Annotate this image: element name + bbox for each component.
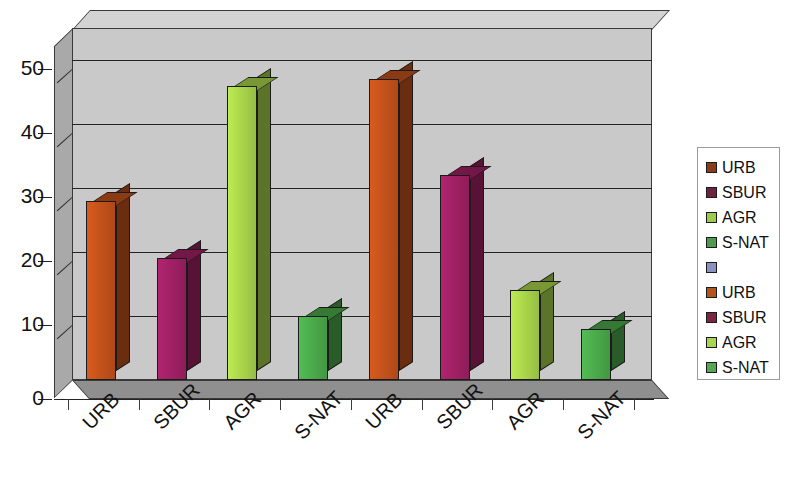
bar-s-nat-2 [581,329,611,380]
x-tick-mark [139,399,140,410]
plot-top-face [72,10,670,30]
legend-item-4[interactable] [706,255,779,280]
legend-swatch-icon [706,337,717,348]
legend-swatch-icon [706,212,717,223]
bar-front-face [440,175,470,380]
bar-sbur-2 [440,175,470,380]
bar-s-nat-1 [298,316,328,380]
legend-item-3[interactable]: S-NAT [706,230,779,255]
legend-label: S-NAT [722,360,769,376]
bar-side-face [257,68,271,371]
x-tick-mark [492,399,493,410]
legend-item-7[interactable]: AGR [706,330,779,355]
legend-label: SBUR [722,310,766,326]
gridline [72,252,652,253]
legend-swatch-icon [706,312,717,323]
legend-label: URB [722,160,756,176]
chart-legend: URBSBURAGRS-NATURBSBURAGRS-NAT [697,147,780,380]
legend-swatch-icon [706,187,717,198]
legend-label: AGR [722,335,757,351]
legend-item-5[interactable]: URB [706,280,779,305]
x-tick-mark [634,399,635,410]
legend-item-6[interactable]: SBUR [706,305,779,330]
x-tick-mark [68,399,69,410]
y-tick-label: 0 [0,386,44,410]
y-tick-label: 50 [0,56,44,80]
y-tick-label: 20 [0,248,44,272]
x-tick-mark [209,399,210,410]
y-tick-label: 40 [0,120,44,144]
legend-swatch-icon [706,362,717,373]
gridline [72,188,652,189]
y-tick-label: 10 [0,312,44,336]
bar-sbur-1 [157,258,187,380]
bar-urb-2 [369,79,399,380]
legend-label: AGR [722,210,757,226]
legend-swatch-icon [706,162,717,173]
legend-item-2[interactable]: AGR [706,205,779,230]
bar-front-face [157,258,187,380]
x-tick-mark [422,399,423,410]
legend-label: S-NAT [722,235,769,251]
bar-agr-1 [227,86,257,380]
legend-item-1[interactable]: SBUR [706,180,779,205]
bar-front-face [86,201,116,380]
x-tick-mark [351,399,352,410]
bar-front-face [227,86,257,380]
y-tick-label: 30 [0,184,44,208]
x-tick-mark [280,399,281,410]
plot-area: 01020304050 URBSBURAGRS-NATURBSBURAGRS-N… [0,0,700,478]
gridline [72,124,652,125]
bar-agr-2 [510,290,540,380]
bar-front-face [510,290,540,380]
legend-item-0[interactable]: URB [706,155,779,180]
legend-swatch-icon [706,262,717,273]
bar-front-face [298,316,328,380]
legend-swatch-icon [706,237,717,248]
bar-side-face [399,61,413,371]
x-tick-mark [563,399,564,410]
gridline [72,60,652,61]
bar-urb-1 [86,201,116,380]
bar-front-face [369,79,399,380]
legend-swatch-icon [706,287,717,298]
bar-chart: 01020304050 URBSBURAGRS-NATURBSBURAGRS-N… [0,0,786,478]
bar-side-face [470,157,484,371]
plot-floor [72,380,669,399]
legend-label: SBUR [722,185,766,201]
bar-front-face [581,329,611,380]
bar-side-face [116,183,130,371]
legend-item-8[interactable]: S-NAT [706,355,779,380]
legend-label: URB [722,285,756,301]
